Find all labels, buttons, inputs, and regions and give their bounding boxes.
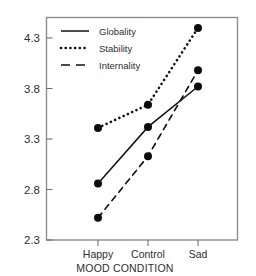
data-point	[144, 123, 152, 131]
y-tick-label: 2.8	[24, 184, 40, 196]
data-point	[144, 152, 152, 160]
y-tick-label: 3.3	[24, 133, 40, 145]
series-group	[98, 28, 198, 218]
legend: Globality Stability Internality	[61, 26, 140, 71]
data-point	[194, 24, 202, 32]
legend-label-stability: Stability	[99, 43, 133, 54]
x-axis-ticks	[98, 240, 198, 246]
data-point	[94, 124, 102, 132]
legend-label-internality: Internality	[99, 60, 140, 71]
y-tick-label: 3.8	[24, 83, 40, 95]
line-chart-svg: 4.3 3.8 3.3 2.8 2.3 Happy Control Sad MO…	[0, 0, 256, 276]
x-tick-label-sad: Sad	[189, 248, 208, 260]
data-point	[194, 82, 202, 90]
x-axis-title: MOOD CONDITION	[76, 262, 173, 274]
data-point	[94, 214, 102, 222]
series-line-internality	[98, 70, 198, 217]
plot-frame	[47, 18, 238, 241]
data-point	[144, 101, 152, 109]
x-tick-label-happy: Happy	[83, 248, 114, 260]
y-tick-label: 2.3	[24, 234, 40, 246]
y-tick-label: 4.3	[24, 32, 40, 44]
data-point	[94, 179, 102, 187]
x-tick-label-control: Control	[131, 248, 165, 260]
x-axis-tick-labels: Happy Control Sad	[83, 248, 208, 260]
chart-figure: 4.3 3.8 3.3 2.8 2.3 Happy Control Sad MO…	[0, 0, 256, 276]
legend-label-globality: Globality	[99, 26, 136, 37]
data-point	[194, 66, 202, 74]
y-axis-ticks	[47, 38, 53, 240]
y-axis-tick-labels: 4.3 3.8 3.3 2.8 2.3	[24, 32, 40, 246]
